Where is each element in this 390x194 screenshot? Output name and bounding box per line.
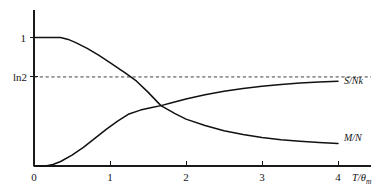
x-axis-title-subscript: m (366, 177, 372, 186)
x-tick-label-1: 1 (107, 171, 113, 183)
curve-label-entropy: S/Nk (344, 75, 363, 86)
curve-label-magnetization: M/N (343, 132, 363, 143)
x-tick-label-3: 3 (259, 171, 265, 183)
curve-entropy (34, 81, 338, 166)
x-tick-label-2: 2 (183, 171, 189, 183)
plot-canvas: 0 1 2 3 4 1 ln2 S/Nk M/N T/θm (0, 0, 390, 194)
x-tick-label-0: 0 (31, 171, 37, 183)
y-tick-label-one: 1 (21, 32, 27, 44)
x-tick-marks (110, 161, 338, 166)
y-tick-labels: 1 ln2 (13, 32, 27, 83)
curve-magnetization (34, 38, 338, 144)
x-axis-title: T/θm (352, 172, 372, 186)
chart-figure: 0 1 2 3 4 1 ln2 S/Nk M/N T/θm (0, 0, 390, 194)
x-tick-labels: 0 1 2 3 4 (31, 171, 341, 183)
x-tick-label-4: 4 (335, 171, 341, 183)
y-tick-label-ln2: ln2 (13, 71, 27, 83)
